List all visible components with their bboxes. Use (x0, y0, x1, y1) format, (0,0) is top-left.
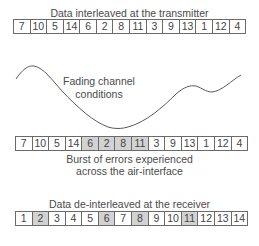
cell: 4 (66, 212, 83, 225)
channel-label-line1: Fading channel (59, 75, 139, 87)
cell-errored: 2 (33, 212, 50, 225)
cell-errored: 11 (182, 212, 199, 225)
cell: 7 (16, 137, 33, 150)
receiver-sequence: 1234567891011121314 (15, 211, 248, 226)
cell: 10 (33, 137, 50, 150)
cell-errored: 6 (99, 212, 116, 225)
cell: 13 (215, 212, 232, 225)
cell: 5 (49, 137, 66, 150)
cell: 12 (215, 137, 232, 150)
cell: 3 (149, 137, 166, 150)
cell: 14 (232, 212, 248, 225)
cell: 14 (66, 137, 83, 150)
receiver-title: Data de-interleaved at the receiver (0, 198, 259, 210)
air-interface-sequence: 7105146281139131124 (15, 136, 248, 151)
cell: 1 (16, 212, 33, 225)
cell-errored: 11 (132, 137, 149, 150)
cell: 4 (232, 137, 248, 150)
cell-errored: 8 (132, 212, 149, 225)
cell: 10 (165, 212, 182, 225)
cell-errored: 8 (115, 137, 132, 150)
cell-errored: 2 (99, 137, 116, 150)
cell: 5 (82, 212, 99, 225)
cell: 7 (115, 212, 132, 225)
channel-label-line2: conditions (59, 88, 139, 100)
cell: 1 (198, 137, 215, 150)
burst-caption-line2: across the air-interface (0, 165, 259, 177)
cell: 13 (182, 137, 199, 150)
burst-caption-line1: Burst of errors experienced (0, 153, 259, 165)
cell-errored: 6 (82, 137, 99, 150)
cell: 9 (165, 137, 182, 150)
cell: 12 (198, 212, 215, 225)
cell: 9 (149, 212, 166, 225)
cell: 3 (49, 212, 66, 225)
